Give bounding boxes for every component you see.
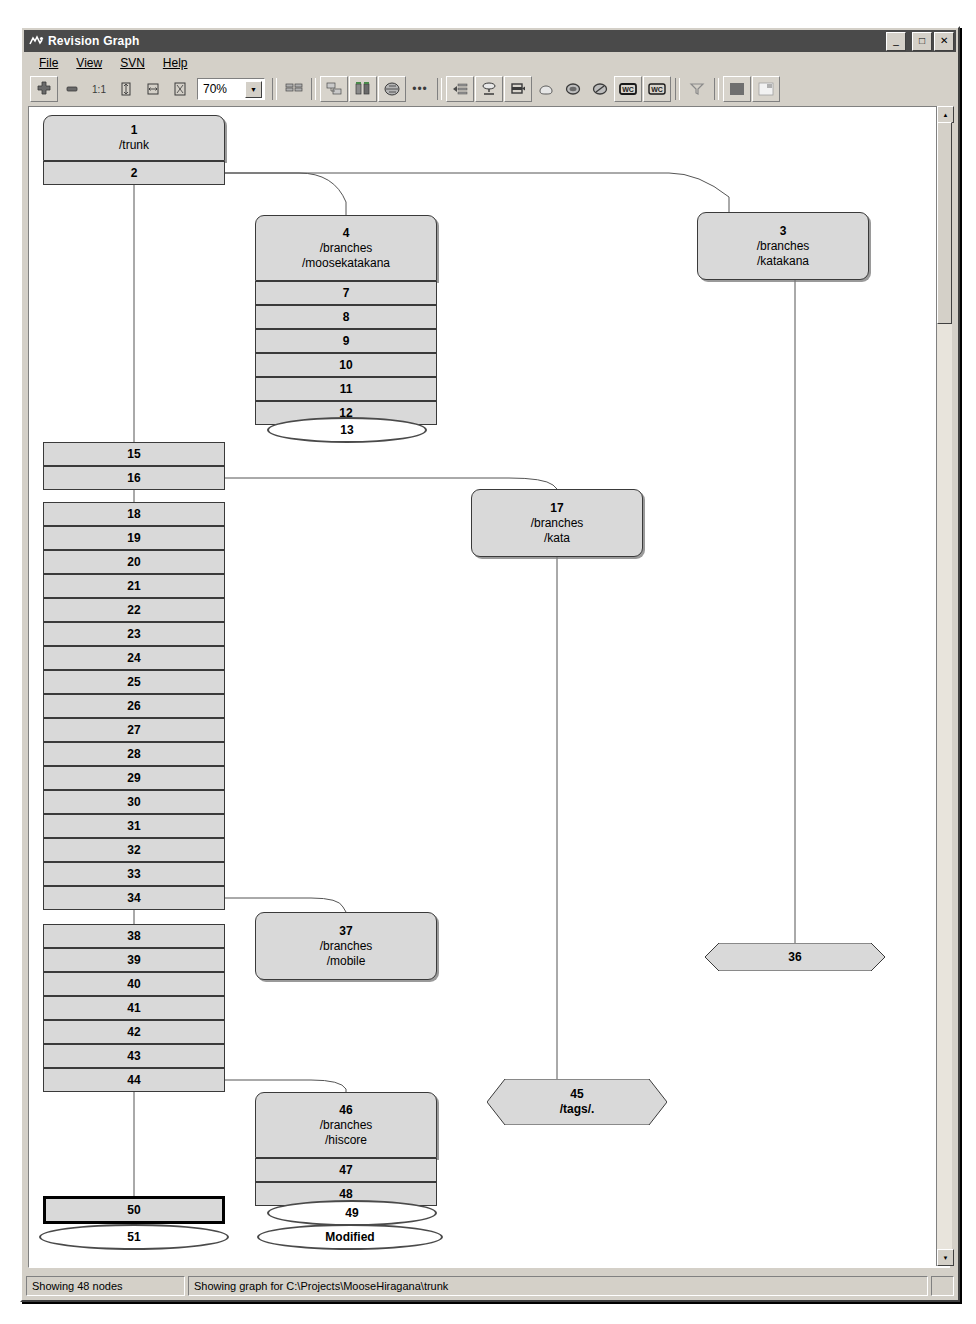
- graph-node-31[interactable]: 31: [43, 814, 225, 838]
- graph-node-44[interactable]: 44: [43, 1068, 225, 1092]
- show-deleted-icon[interactable]: [560, 77, 586, 101]
- close-button[interactable]: ✕: [934, 32, 954, 51]
- graph-canvas[interactable]: 1/trunk24/branches/moosekatakana78910111…: [28, 106, 950, 1268]
- graph-node-39[interactable]: 39: [43, 948, 225, 972]
- graph-tag-node-45[interactable]: 45/tags/.: [487, 1079, 667, 1125]
- compare-revisions-icon[interactable]: [349, 76, 377, 102]
- minimize-button[interactable]: _: [886, 32, 906, 51]
- node-revision: 42: [127, 1025, 140, 1040]
- zoom-fit-icon[interactable]: [30, 76, 58, 102]
- graph-node-9[interactable]: 9: [255, 329, 437, 353]
- maximize-button[interactable]: □: [912, 32, 932, 51]
- more-options-icon[interactable]: •••: [407, 77, 433, 101]
- graph-node-32[interactable]: 32: [43, 838, 225, 862]
- vertical-scrollbar[interactable]: ▲ ▼: [936, 106, 952, 1266]
- vertical-scroll-thumb[interactable]: [937, 122, 952, 324]
- window-controls: _ □ ✕: [886, 32, 954, 51]
- graph-node-17[interactable]: 17/branches/kata: [471, 489, 643, 557]
- graph-node-19[interactable]: 19: [43, 526, 225, 550]
- menu-svn[interactable]: SVN: [111, 54, 154, 72]
- menu-file[interactable]: File: [30, 54, 67, 72]
- show-modified-icon[interactable]: [533, 77, 559, 101]
- node-label: 51: [127, 1230, 140, 1244]
- filter-icon[interactable]: [684, 77, 710, 101]
- graph-node-42[interactable]: 42: [43, 1020, 225, 1044]
- show-all-revisions-icon[interactable]: [446, 76, 474, 102]
- zoom-out-icon[interactable]: [59, 77, 85, 101]
- fill-color-icon[interactable]: [723, 76, 751, 102]
- graph-node-7[interactable]: 7: [255, 281, 437, 305]
- graph-node-3[interactable]: 3/branches/katakana: [697, 212, 869, 280]
- graph-node-33[interactable]: 33: [43, 862, 225, 886]
- graph-node-46[interactable]: 46/branches/hiscore: [255, 1092, 437, 1158]
- graph-node-1[interactable]: 1/trunk: [43, 115, 225, 161]
- status-bar: Showing 48 nodes Showing graph for C:\Pr…: [26, 1276, 954, 1296]
- graph-node-11[interactable]: 11: [255, 377, 437, 401]
- zoom-fit-height-icon[interactable]: [113, 77, 139, 101]
- graph-node-30[interactable]: 30: [43, 790, 225, 814]
- graph-ellipse-node-13[interactable]: 13: [267, 417, 427, 443]
- graph-node-27[interactable]: 27: [43, 718, 225, 742]
- node-revision: 26: [127, 699, 140, 714]
- graph-node-29[interactable]: 29: [43, 766, 225, 790]
- group-branches-icon[interactable]: [281, 77, 307, 101]
- graph-ellipse-node-modified[interactable]: Modified: [257, 1224, 443, 1250]
- node-revision: 46: [339, 1103, 352, 1118]
- graph-node-40[interactable]: 40: [43, 972, 225, 996]
- hide-unrelated-icon[interactable]: [587, 77, 613, 101]
- graph-node-41[interactable]: 41: [43, 996, 225, 1020]
- show-tags-icon[interactable]: [504, 76, 532, 102]
- working-copy-a-icon[interactable]: WC: [614, 76, 642, 102]
- scroll-up-arrow[interactable]: ▲: [937, 106, 954, 123]
- screenshot-root: Revision Graph _ □ ✕ File View SVN Help …: [0, 0, 976, 1324]
- node-label: Modified: [325, 1230, 374, 1244]
- zoom-fit-width-icon[interactable]: [140, 77, 166, 101]
- title-bar: Revision Graph _ □ ✕: [24, 30, 956, 52]
- show-overview-icon[interactable]: [320, 76, 348, 102]
- graph-node-34[interactable]: 34: [43, 886, 225, 910]
- graph-ellipse-node-49[interactable]: 49: [267, 1200, 437, 1226]
- graph-node-21[interactable]: 21: [43, 574, 225, 598]
- node-path-line: /tags/.: [487, 1102, 667, 1117]
- graph-node-24[interactable]: 24: [43, 646, 225, 670]
- graph-node-28[interactable]: 28: [43, 742, 225, 766]
- graph-node-43[interactable]: 43: [43, 1044, 225, 1068]
- zoom-window-icon[interactable]: [167, 77, 193, 101]
- chevron-down-icon[interactable]: ▼: [245, 81, 262, 98]
- scroll-down-arrow[interactable]: ▼: [937, 1249, 954, 1266]
- graph-tag-node-36[interactable]: 36: [705, 943, 885, 971]
- graph-node-47[interactable]: 47: [255, 1158, 437, 1182]
- graph-node-23[interactable]: 23: [43, 622, 225, 646]
- working-copy-b-icon[interactable]: WC: [643, 76, 671, 102]
- unified-diff-icon[interactable]: [378, 76, 406, 102]
- zoom-100-icon[interactable]: 1:1: [86, 77, 112, 101]
- zoom-level-combobox[interactable]: 70% ▼: [197, 78, 265, 100]
- node-revision: 1: [131, 123, 138, 138]
- graph-node-37[interactable]: 37/branches/mobile: [255, 912, 437, 980]
- node-revision: 11: [340, 382, 353, 397]
- menu-view-label: View: [76, 56, 102, 70]
- node-revision: 43: [127, 1049, 140, 1064]
- graph-node-50[interactable]: 50: [43, 1196, 225, 1224]
- graph-node-10[interactable]: 10: [255, 353, 437, 377]
- show-head-icon[interactable]: [475, 76, 503, 102]
- node-revision: 40: [127, 977, 140, 992]
- graph-node-2[interactable]: 2: [43, 161, 225, 185]
- graph-ellipse-node-51[interactable]: 51: [39, 1224, 229, 1250]
- graph-node-38[interactable]: 38: [43, 924, 225, 948]
- graph-node-18[interactable]: 18: [43, 502, 225, 526]
- graph-node-16[interactable]: 16: [43, 466, 225, 490]
- graph-node-26[interactable]: 26: [43, 694, 225, 718]
- graph-node-20[interactable]: 20: [43, 550, 225, 574]
- node-revision: 33: [127, 867, 140, 882]
- graph-node-22[interactable]: 22: [43, 598, 225, 622]
- save-graph-icon[interactable]: [752, 76, 780, 102]
- node-revision: 25: [127, 675, 140, 690]
- graph-node-15[interactable]: 15: [43, 442, 225, 466]
- graph-node-25[interactable]: 25: [43, 670, 225, 694]
- menu-view[interactable]: View: [67, 54, 111, 72]
- graph-node-8[interactable]: 8: [255, 305, 437, 329]
- graph-canvas-inner: 1/trunk24/branches/moosekatakana78910111…: [29, 107, 949, 1267]
- menu-help[interactable]: Help: [154, 54, 197, 72]
- graph-node-4[interactable]: 4/branches/moosekatakana: [255, 215, 437, 281]
